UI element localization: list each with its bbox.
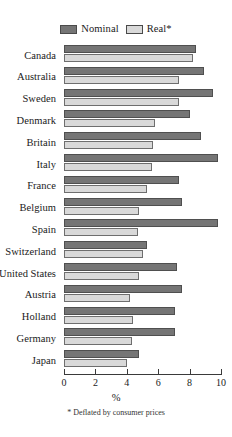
bar-real[interactable] <box>64 76 179 84</box>
legend-entry[interactable]: Real* <box>126 24 172 34</box>
x-axis-tick <box>221 369 222 374</box>
chart-row: Italy <box>0 153 232 175</box>
category-label: Austria <box>0 284 60 306</box>
bar-real[interactable] <box>64 228 138 236</box>
bar-real[interactable] <box>64 98 179 106</box>
chart-row: Austria <box>0 284 232 306</box>
legend-swatch-nominal <box>60 25 77 34</box>
bar-real[interactable] <box>64 119 155 127</box>
bar-nominal[interactable] <box>64 154 218 162</box>
bar-nominal[interactable] <box>64 67 204 75</box>
category-label: Denmark <box>0 109 60 131</box>
x-axis-tick <box>158 369 159 374</box>
bar-group <box>64 306 232 328</box>
x-axis-tick-label: 2 <box>93 378 98 388</box>
bar-real[interactable] <box>64 207 139 215</box>
bar-group <box>64 349 232 371</box>
bar-nominal[interactable] <box>64 176 179 184</box>
category-label: Spain <box>0 218 60 240</box>
x-axis: 0246810 <box>64 374 222 375</box>
bar-nominal[interactable] <box>64 219 218 227</box>
legend-label: Nominal <box>81 24 118 34</box>
bar-group <box>64 153 232 175</box>
chart-legend: NominalReal* <box>0 20 232 38</box>
bar-group <box>64 197 232 219</box>
chart-row: Australia <box>0 66 232 88</box>
bar-real[interactable] <box>64 163 152 171</box>
chart-footnote: * Deflated by consumer prices <box>0 408 232 417</box>
bar-real[interactable] <box>64 294 130 302</box>
bar-group <box>64 131 232 153</box>
bar-real[interactable] <box>64 54 193 62</box>
bar-group <box>64 327 232 349</box>
bar-nominal[interactable] <box>64 45 196 53</box>
category-label: Sweden <box>0 88 60 110</box>
category-label: Germany <box>0 327 60 349</box>
chart-row: Denmark <box>0 109 232 131</box>
plot-area: CanadaAustraliaSwedenDenmarkBritainItaly… <box>0 44 232 374</box>
x-axis-tick-label: 6 <box>156 378 161 388</box>
bar-nominal[interactable] <box>64 263 177 271</box>
x-axis-tick-label: 10 <box>216 378 226 388</box>
x-axis-tick <box>95 369 96 374</box>
bar-real[interactable] <box>64 272 139 280</box>
bar-real[interactable] <box>64 316 133 324</box>
bar-real[interactable] <box>64 141 153 149</box>
x-axis-tick <box>127 369 128 374</box>
x-axis-tick <box>190 369 191 374</box>
chart-row: United States <box>0 262 232 284</box>
bar-nominal[interactable] <box>64 328 175 336</box>
category-label: Holland <box>0 306 60 328</box>
x-axis-tick <box>64 369 65 374</box>
category-label: United States <box>0 262 60 284</box>
category-label: Italy <box>0 153 60 175</box>
bar-nominal[interactable] <box>64 89 213 97</box>
bar-chart: NominalReal* CanadaAustraliaSwedenDenmar… <box>0 0 232 437</box>
x-axis-tick-label: 4 <box>124 378 129 388</box>
chart-row: Japan <box>0 349 232 371</box>
category-label: Japan <box>0 349 60 371</box>
bar-group <box>64 262 232 284</box>
bar-group <box>64 218 232 240</box>
legend-entry[interactable]: Nominal <box>60 24 118 34</box>
bar-nominal[interactable] <box>64 241 147 249</box>
category-label: Canada <box>0 44 60 66</box>
chart-row: Sweden <box>0 88 232 110</box>
bar-group <box>64 240 232 262</box>
bar-real[interactable] <box>64 250 143 258</box>
bar-nominal[interactable] <box>64 350 139 358</box>
bar-group <box>64 88 232 110</box>
chart-row: Switzerland <box>0 240 232 262</box>
category-label: France <box>0 175 60 197</box>
chart-row: France <box>0 175 232 197</box>
category-label: Switzerland <box>0 240 60 262</box>
bar-nominal[interactable] <box>64 110 190 118</box>
bar-real[interactable] <box>64 337 132 345</box>
category-label: Australia <box>0 66 60 88</box>
bar-nominal[interactable] <box>64 307 175 315</box>
bar-real[interactable] <box>64 185 147 193</box>
chart-row: Germany <box>0 327 232 349</box>
chart-row: Britain <box>0 131 232 153</box>
bar-group <box>64 175 232 197</box>
bar-nominal[interactable] <box>64 132 201 140</box>
x-axis-tick-label: 0 <box>62 378 67 388</box>
legend-label: Real* <box>147 24 172 34</box>
legend-swatch-real <box>126 25 143 34</box>
bar-real[interactable] <box>64 359 127 367</box>
bar-group <box>64 44 232 66</box>
x-axis-tick-label: 8 <box>187 378 192 388</box>
chart-row: Spain <box>0 218 232 240</box>
bar-group <box>64 109 232 131</box>
chart-row: Holland <box>0 306 232 328</box>
bar-group <box>64 284 232 306</box>
chart-row: Canada <box>0 44 232 66</box>
bar-group <box>64 66 232 88</box>
category-label: Britain <box>0 131 60 153</box>
chart-row: Belgium <box>0 197 232 219</box>
bar-nominal[interactable] <box>64 285 182 293</box>
category-label: Belgium <box>0 197 60 219</box>
bar-nominal[interactable] <box>64 198 182 206</box>
x-axis-label: % <box>0 392 232 403</box>
